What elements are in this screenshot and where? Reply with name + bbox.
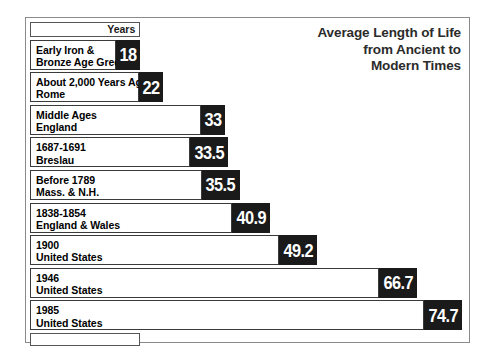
bar-label: 1687-1691Breslau [36, 141, 86, 165]
bar-label-line-2: Rome [36, 88, 148, 100]
bar-label: Before 1789Mass. & N.H. [36, 174, 99, 198]
bar-body: 1985United States [30, 300, 424, 330]
bar-label-line-1: Middle Ages [36, 109, 97, 121]
bar-value-label: 33 [205, 110, 222, 129]
bar-row[interactable]: Middle AgesEngland33 [30, 105, 225, 135]
chart-frame: Average Length of Life from Ancient to M… [25, 17, 470, 343]
bar-value-label: 22 [142, 78, 159, 97]
bar-label: Middle AgesEngland [36, 109, 97, 133]
bar-row[interactable]: 1687-1691Breslau33.5 [30, 137, 228, 167]
bar-label-line-2: England [36, 121, 97, 133]
bar-value-box: 18 [116, 40, 140, 70]
bar-rows-container: YearsEarly Iron &Bronze Age Greece18Abou… [30, 22, 465, 338]
bar-value-label: 18 [120, 45, 137, 64]
bar-row[interactable]: Before 1789Mass. & N.H.35.5 [30, 170, 240, 200]
bar-row[interactable]: 1985United States74.7 [30, 300, 462, 330]
bar-label-line-1: Before 1789 [36, 174, 99, 186]
bar-row[interactable]: 1838-1854England & Wales40.9 [30, 203, 270, 233]
bar-body: Early Iron &Bronze Age Greece [30, 40, 116, 70]
bar-label-line-2: Breslau [36, 154, 86, 166]
bar-body: 1946United States [30, 268, 379, 298]
bar-value-label: 33.5 [194, 143, 224, 162]
bar-label: 1946United States [36, 272, 102, 296]
bar-label-line-1: 1985 [36, 304, 102, 316]
bar-value-box: 33.5 [190, 137, 228, 167]
bar-value-box: 74.7 [424, 300, 462, 330]
bar-body: 1838-1854England & Wales [30, 203, 232, 233]
bar-label-line-2: England & Wales [36, 219, 120, 231]
bar-label: About 2,000 Years AgoRome [36, 76, 148, 100]
bar-value-label: 66.7 [383, 273, 413, 292]
bar-value-box: 49.2 [279, 235, 317, 265]
bar-row[interactable]: About 2,000 Years AgoRome22 [30, 72, 163, 102]
footer-strip [30, 333, 140, 346]
bar-value-box: 40.9 [232, 203, 270, 233]
bar-body: 1687-1691Breslau [30, 137, 190, 167]
bar-value-box: 33 [201, 105, 225, 135]
bar-value-label: 74.7 [428, 306, 458, 325]
bar-label: 1900United States [36, 239, 102, 263]
years-header-strip: Years [30, 22, 140, 37]
bar-label-line-1: 1946 [36, 272, 102, 284]
bar-value-label: 40.9 [236, 208, 266, 227]
bar-value-box: 22 [139, 72, 163, 102]
bar-label-line-2: United States [36, 317, 102, 329]
bar-label: 1985United States [36, 304, 102, 328]
bar-label-line-1: 1838-1854 [36, 207, 120, 219]
bar-label: 1838-1854England & Wales [36, 207, 120, 231]
bar-label-line-2: United States [36, 284, 102, 296]
bar-body: 1900United States [30, 235, 279, 265]
bar-label-line-2: United States [36, 251, 102, 263]
bar-row[interactable]: 1900United States49.2 [30, 235, 317, 265]
bar-body: Middle AgesEngland [30, 105, 201, 135]
bar-value-label: 35.5 [206, 175, 236, 194]
bar-label-line-1: 1900 [36, 239, 102, 251]
years-axis-label: Years [107, 23, 135, 36]
bar-body: Before 1789Mass. & N.H. [30, 170, 202, 200]
bar-label-line-2: Mass. & N.H. [36, 186, 99, 198]
bar-label-line-1: About 2,000 Years Ago [36, 76, 148, 88]
bar-row[interactable]: 1946United States66.7 [30, 268, 417, 298]
bar-label-line-1: 1687-1691 [36, 141, 86, 153]
bar-value-label: 49.2 [284, 241, 314, 260]
bar-value-box: 66.7 [379, 268, 417, 298]
bar-body: About 2,000 Years AgoRome [30, 72, 139, 102]
bar-value-box: 35.5 [202, 170, 240, 200]
bar-row[interactable]: Early Iron &Bronze Age Greece18 [30, 40, 140, 70]
